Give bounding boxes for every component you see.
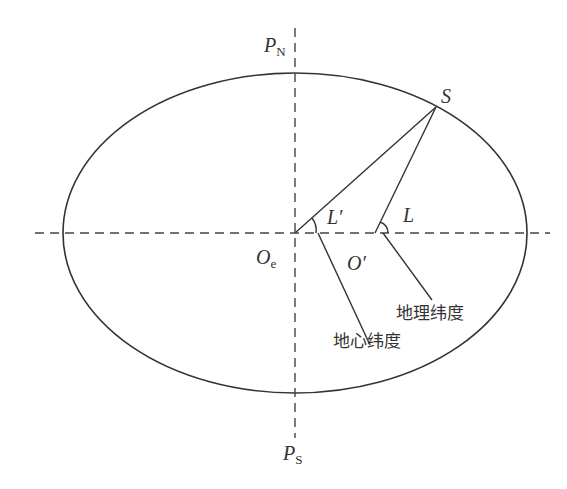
- geocentric-angle-arc: [312, 218, 316, 233]
- geographic-latitude-leader: [383, 233, 432, 300]
- earth-center-label: Oe: [256, 246, 276, 271]
- geocentric-latitude-leader: [318, 233, 370, 345]
- geocentric-radius-line: [295, 107, 436, 233]
- geographic-angle-arc: [380, 222, 388, 233]
- point-s-label: S: [441, 85, 451, 107]
- geographic-latitude-label: 地理纬度: [396, 303, 464, 323]
- geocentric-latitude-label: 地心纬度: [333, 331, 401, 351]
- geodetic-latitude-diagram: PN PS S Oe O′ L′ L 地理纬度 地心纬度: [0, 0, 567, 489]
- south-pole-label: PS: [282, 442, 302, 467]
- o-prime-label: O′: [347, 252, 366, 274]
- geographic-angle-label: L: [402, 204, 414, 226]
- geocentric-angle-label: L′: [326, 206, 343, 228]
- north-pole-label: PN: [263, 34, 286, 59]
